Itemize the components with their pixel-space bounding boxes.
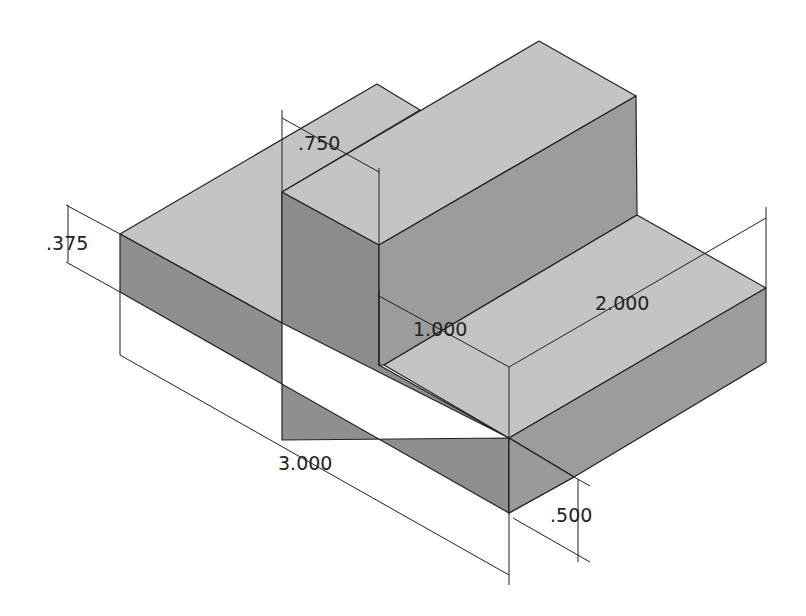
dim-label-1000: 1.000	[413, 318, 467, 340]
dim-label-500: .500	[550, 504, 592, 526]
dim-label-3000: 3.000	[278, 452, 332, 474]
isometric-part-drawing: .750 .375 1.000 2.000 3.000 .500	[0, 0, 806, 616]
dim-label-750: .750	[298, 132, 340, 154]
dim-label-2000: 2.000	[595, 292, 649, 314]
dim-label-375: .375	[46, 232, 88, 254]
